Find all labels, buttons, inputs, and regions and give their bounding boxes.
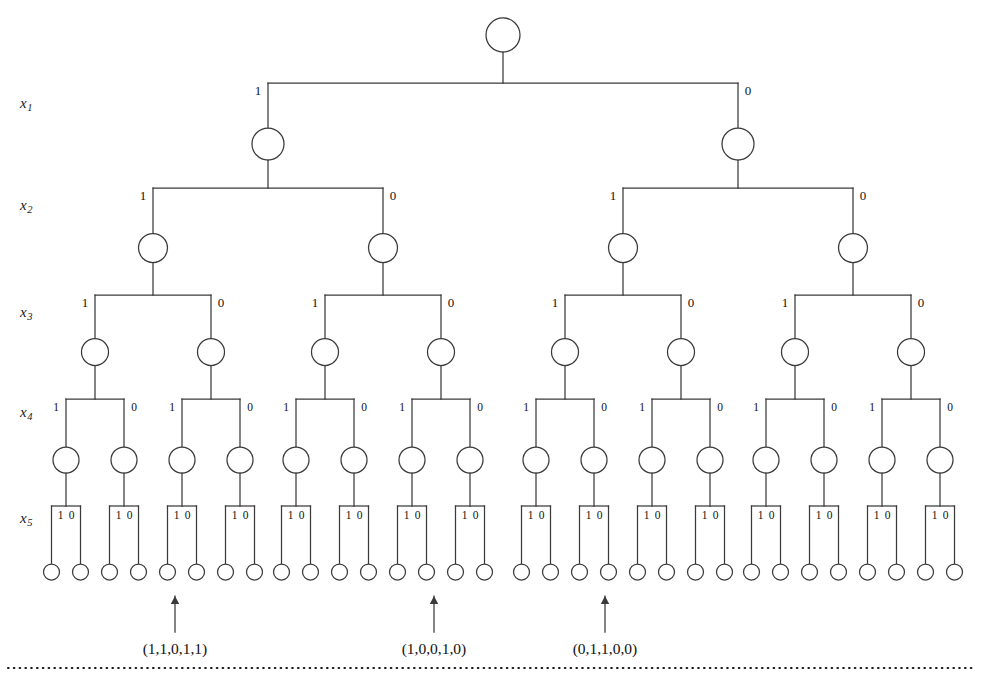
branch-label-one: 1 — [753, 401, 759, 413]
tree-node — [869, 447, 895, 473]
branch-label-one: 1 — [174, 509, 180, 521]
branch-label-zero: 0 — [601, 401, 607, 413]
tree-node — [811, 447, 837, 473]
tree-node — [860, 564, 876, 580]
branch-label-one: 1 — [82, 295, 89, 310]
level-label-x3: x3 — [20, 305, 32, 320]
branch-label-one: 1 — [644, 509, 650, 521]
tree-node — [773, 564, 789, 580]
tree-node-root — [486, 18, 520, 52]
tree-node — [303, 564, 319, 580]
tree-node — [82, 339, 109, 366]
tree-node — [361, 564, 377, 580]
tree-node — [283, 447, 309, 473]
branch-label-zero: 0 — [713, 509, 719, 521]
tree-node — [523, 447, 549, 473]
branch-label-one: 1 — [932, 509, 938, 521]
tree-node — [609, 234, 638, 263]
tree-node — [369, 234, 398, 263]
tree-node — [198, 339, 225, 366]
branch-label-one: 1 — [702, 509, 708, 521]
branch-label-one: 1 — [462, 509, 468, 521]
tree-node — [457, 447, 483, 473]
branch-label-one: 1 — [523, 401, 529, 413]
branch-label-zero: 0 — [477, 401, 483, 413]
branch-label-zero: 0 — [717, 401, 723, 413]
figure-canvas: 1010101010101010101010101010101010101010… — [0, 0, 982, 683]
tree-node — [918, 564, 934, 580]
branch-label-one: 1 — [312, 295, 319, 310]
tree-node — [131, 564, 147, 580]
tree-node — [312, 339, 339, 366]
branch-label-one: 1 — [639, 401, 645, 413]
tree-node — [722, 128, 754, 160]
branch-label-one: 1 — [758, 509, 764, 521]
tree-node — [111, 447, 137, 473]
level-label-base: x — [20, 510, 27, 526]
branch-label-zero: 0 — [943, 509, 949, 521]
tree-node — [477, 564, 493, 580]
branch-label-one: 1 — [255, 83, 262, 98]
branch-label-one: 1 — [610, 188, 617, 203]
level-label-x5: x5 — [20, 511, 32, 526]
tree-node — [341, 447, 367, 473]
tree-node — [659, 564, 675, 580]
level-label-subscript: 2 — [27, 204, 32, 215]
level-label-base: x — [20, 197, 27, 213]
tree-node — [744, 564, 760, 580]
branch-label-zero: 0 — [655, 509, 661, 521]
branch-label-zero: 0 — [415, 509, 421, 521]
branch-label-one: 1 — [58, 509, 64, 521]
branch-label-zero: 0 — [127, 509, 133, 521]
branch-label-one: 1 — [232, 509, 238, 521]
branch-label-one: 1 — [288, 509, 294, 521]
tree-node — [160, 564, 176, 580]
branch-label-one: 1 — [869, 401, 875, 413]
branch-label-zero: 0 — [247, 401, 253, 413]
tree-node — [630, 564, 646, 580]
tree-node — [697, 447, 723, 473]
tree-node — [428, 339, 455, 366]
tree-node — [753, 447, 779, 473]
level-label-base: x — [20, 95, 27, 111]
tree-node — [247, 564, 263, 580]
tree-node — [668, 339, 695, 366]
tree-node — [601, 564, 617, 580]
branch-label-one: 1 — [116, 509, 122, 521]
branch-label-zero: 0 — [947, 401, 953, 413]
level-label-subscript: 4 — [27, 411, 32, 422]
branch-label-one: 1 — [346, 509, 352, 521]
tree-node — [419, 564, 435, 580]
branch-label-zero: 0 — [918, 295, 925, 310]
annotation-arrow-head — [171, 596, 179, 604]
branch-label-one: 1 — [528, 509, 534, 521]
tree-node — [688, 564, 704, 580]
tree-node — [189, 564, 205, 580]
branch-label-zero: 0 — [473, 509, 479, 521]
branch-label-zero: 0 — [860, 188, 867, 203]
branch-label-zero: 0 — [357, 509, 363, 521]
branch-label-zero: 0 — [361, 401, 367, 413]
tree-node — [927, 447, 953, 473]
level-label-x1: x1 — [20, 96, 32, 111]
tree-node — [73, 564, 89, 580]
tree-node — [139, 234, 168, 263]
annotation-arrow-head — [601, 596, 609, 604]
tree-node — [839, 234, 868, 263]
level-label-x2: x2 — [20, 198, 32, 213]
tree-node — [274, 564, 290, 580]
branch-label-zero: 0 — [769, 509, 775, 521]
tree-node — [889, 564, 905, 580]
tree-node — [543, 564, 559, 580]
annotation-tuple-label: (1,1,0,1,1) — [143, 641, 208, 657]
tree-node — [227, 447, 253, 473]
tree-node — [169, 447, 195, 473]
branch-label-zero: 0 — [831, 401, 837, 413]
tree-node — [947, 564, 963, 580]
tree-node — [332, 564, 348, 580]
branch-label-one: 1 — [816, 509, 822, 521]
tree-node — [390, 564, 406, 580]
branch-label-one: 1 — [552, 295, 559, 310]
tree-node — [44, 564, 60, 580]
tree-node — [581, 447, 607, 473]
